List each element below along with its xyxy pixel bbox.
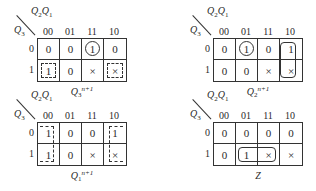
row-variable-label: Q3 (190, 25, 201, 39)
cell: × (280, 144, 302, 165)
col-variable-label: Q2Q1 (31, 6, 52, 20)
row-header: 1 (200, 149, 210, 159)
kmap-grid: 0 0 1 0 1 0 × × (37, 38, 127, 82)
row-header: 1 (24, 149, 34, 159)
row-variable-label: Q3 (14, 25, 25, 39)
cell: 0 (38, 39, 60, 60)
col-header: 00 (37, 27, 59, 37)
cell: 0 (60, 144, 82, 165)
cell: × (82, 60, 104, 81)
col-header: 01 (59, 27, 81, 37)
col-header: 11 (257, 111, 279, 121)
cell: 0 (236, 123, 258, 144)
cell: 0 (214, 123, 236, 144)
col-header: 11 (257, 27, 279, 37)
map-caption: Q1n+1 (37, 168, 127, 184)
cell: 0 (60, 39, 82, 60)
kmap-q2-next: Q2Q1 Q3 00 01 11 10 0 1 0 1 0 1 0 0 × × … (176, 0, 316, 95)
col-header: 10 (103, 27, 125, 37)
dashed-loop-right-column (109, 126, 123, 162)
col-header: 01 (235, 27, 257, 37)
cell: 0 (280, 123, 302, 144)
col-variable-label: Q2Q1 (207, 6, 228, 20)
col-header: 00 (37, 111, 59, 121)
map-caption: Z (213, 168, 303, 184)
cell: 0 (258, 123, 280, 144)
row-header: 1 (24, 65, 34, 75)
cell: 0 (60, 123, 82, 144)
dashed-loop (107, 63, 123, 78)
col-header: 11 (81, 111, 103, 121)
cell: 0 (60, 60, 82, 81)
cell: 0 (236, 60, 258, 81)
row-header: 1 (200, 65, 210, 75)
col-header: 01 (235, 111, 257, 121)
kmap-q1-next: Q2Q1 Q3 00 01 11 10 0 1 1 0 0 1 1 0 × × … (0, 84, 160, 191)
vertical-loop (280, 42, 296, 78)
horizontal-loop (238, 147, 276, 162)
col-header: 10 (103, 111, 125, 121)
dashed-loop (41, 63, 56, 78)
col-header: 00 (213, 111, 235, 121)
cell: 0 (214, 60, 236, 81)
row-header: 0 (24, 44, 34, 54)
cell: 0 (104, 39, 126, 60)
cell: 0 (82, 123, 104, 144)
col-header: 10 (279, 27, 301, 37)
col-header: 10 (279, 111, 301, 121)
cell: 0 (258, 39, 280, 60)
col-header: 11 (81, 27, 103, 37)
dashed-loop-left-column (40, 126, 54, 162)
row-header: 0 (200, 128, 210, 138)
cell: 0 (214, 39, 236, 60)
row-header: 0 (24, 128, 34, 138)
cell: 0 (214, 144, 236, 165)
col-variable-label: Q2Q1 (207, 90, 228, 104)
cell: × (82, 144, 104, 165)
row-variable-label: Q3 (14, 109, 25, 123)
cell: 1 (82, 39, 104, 60)
col-header: 01 (59, 111, 81, 121)
cell: × (258, 60, 280, 81)
col-header: 00 (213, 27, 235, 37)
circle-loop (239, 41, 254, 56)
row-variable-label: Q3 (190, 109, 201, 123)
cell: 1 (38, 60, 60, 81)
kmap-z: Q2Q1 Q3 00 01 11 10 0 1 0 0 0 0 0 1 × × … (176, 84, 316, 191)
row-header: 0 (200, 44, 210, 54)
kmap-q3-next: Q2Q1 Q3 00 01 11 10 0 1 0 0 1 0 1 0 × × … (0, 0, 160, 95)
cell: × (104, 60, 126, 81)
cell: 1 (236, 39, 258, 60)
col-variable-label: Q2Q1 (31, 90, 52, 104)
circle-loop (85, 41, 100, 56)
